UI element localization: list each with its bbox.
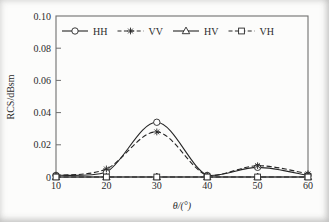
legend-label-VV: VV xyxy=(149,26,164,37)
series-VV-asterisk-marker xyxy=(254,162,261,169)
chart-plot-area: 00.020.040.060.080.10102030405060HHVVHVV… xyxy=(34,11,314,192)
series-line-VV xyxy=(56,132,308,176)
series-VH-square-marker xyxy=(204,174,210,180)
square-marker-shape xyxy=(204,174,210,180)
y-tick-label: 0.02 xyxy=(34,139,52,150)
x-tick-label: 40 xyxy=(202,180,212,191)
legend-label-VH: VH xyxy=(260,26,274,37)
series-HH-circle-marker xyxy=(154,119,160,125)
plot-box xyxy=(56,16,308,177)
legend-VV-asterisk-marker xyxy=(127,28,134,35)
legend-label-HH: HH xyxy=(93,26,107,37)
x-tick-label: 10 xyxy=(51,180,61,191)
square-marker-shape xyxy=(255,174,261,180)
series-VH-square-marker xyxy=(53,174,59,180)
rcs-figure: 00.020.040.060.080.10102030405060HHVVHVV… xyxy=(0,0,329,222)
x-tick-label: 20 xyxy=(101,180,111,191)
x-tick-label: 30 xyxy=(152,180,162,191)
square-marker-shape xyxy=(104,174,110,180)
y-tick-label: 0.08 xyxy=(34,43,52,54)
series-VV-asterisk-marker xyxy=(153,129,160,136)
series-line-HH xyxy=(56,122,308,175)
x-axis-title: θ/(°) xyxy=(173,200,192,212)
square-marker-shape xyxy=(53,174,59,180)
y-tick-label: 0.04 xyxy=(34,107,52,118)
y-tick-label: 0.10 xyxy=(34,11,52,22)
y-tick-label: 0.06 xyxy=(34,75,52,86)
square-marker-shape xyxy=(239,28,245,34)
circle-marker-shape xyxy=(72,28,78,34)
chart-canvas: 00.020.040.060.080.10102030405060HHVVHVV… xyxy=(0,0,329,222)
series-VH-square-marker xyxy=(154,174,160,180)
square-marker-shape xyxy=(154,174,160,180)
series-VH-square-marker xyxy=(255,174,261,180)
square-marker-shape xyxy=(305,174,311,180)
series-VH-square-marker xyxy=(104,174,110,180)
legend-HH-circle-marker xyxy=(72,28,78,34)
triangle-up-marker-shape xyxy=(182,27,189,34)
legend-label-HV: HV xyxy=(204,26,219,37)
y-axis-title: RCS/dBsm xyxy=(5,74,16,119)
legend-VH-square-marker xyxy=(239,28,245,34)
x-tick-label: 60 xyxy=(303,180,313,191)
series-VH-square-marker xyxy=(305,174,311,180)
circle-marker-shape xyxy=(154,119,160,125)
series-VV-asterisk-marker xyxy=(103,166,110,173)
legend-HV-triangle-up-marker xyxy=(182,27,189,34)
x-tick-label: 50 xyxy=(253,180,263,191)
